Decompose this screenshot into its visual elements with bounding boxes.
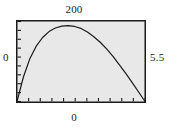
x-axis-max-label: 5.5: [150, 52, 164, 63]
x-axis-origin-label: 0: [0, 112, 172, 123]
plot-background: [16, 20, 146, 103]
plot-svg: [16, 20, 146, 103]
y-axis-max-label: 200: [0, 4, 172, 15]
y-axis-origin-label: 0: [3, 52, 9, 63]
plot-figure: 200 0 5.5 0: [0, 0, 172, 130]
plot-area: [16, 20, 146, 103]
